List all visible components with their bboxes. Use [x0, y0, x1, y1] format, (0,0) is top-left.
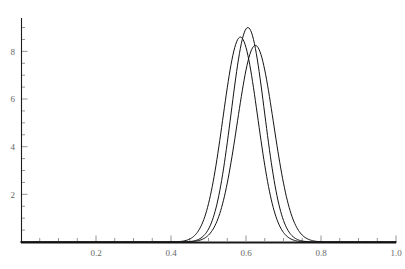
x-axis-tick-label: 0.8	[315, 248, 327, 258]
x-axis-tick-label: 0.4	[165, 248, 177, 258]
plot-background	[0, 0, 405, 269]
density-plot: 0.20.40.60.81.0 2468	[0, 0, 405, 269]
y-axis-tick-label: 2	[11, 190, 16, 200]
x-axis-tick-label: 0.6	[240, 248, 252, 258]
y-axis-tick-label: 8	[11, 47, 16, 57]
y-axis-tick-label: 4	[11, 142, 16, 152]
y-axis-tick-label: 6	[11, 94, 16, 104]
x-axis-tick-label: 1.0	[390, 248, 402, 258]
x-axis-tick-label: 0.2	[90, 248, 101, 258]
chart-figure: 0.20.40.60.81.0 2468	[0, 0, 405, 269]
